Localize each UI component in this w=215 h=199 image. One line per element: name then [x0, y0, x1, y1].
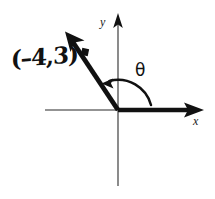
- vector-diagram-figure: y x θ (–4,3): [0, 0, 215, 199]
- diagram-canvas: [0, 0, 215, 199]
- point-coordinate-label: (–4,3): [11, 42, 79, 70]
- vector-shaft: [73, 42, 119, 111]
- angle-theta-label: θ: [135, 62, 145, 79]
- angle-arc: [110, 80, 152, 105]
- x-axis-label: x: [193, 115, 198, 127]
- point-marker: [81, 48, 89, 56]
- y-axis-label: y: [100, 16, 105, 28]
